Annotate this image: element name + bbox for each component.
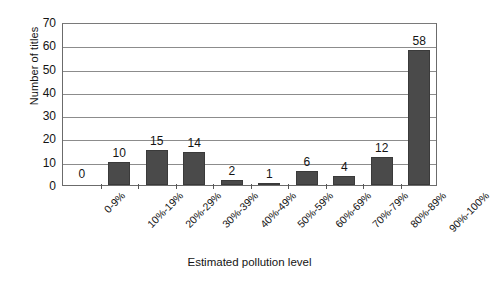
bar-value-label: 2 bbox=[228, 165, 235, 177]
bar[interactable] bbox=[408, 50, 430, 185]
y-axis-tick-label: 60 bbox=[24, 40, 56, 52]
bar-slot: 12 bbox=[363, 24, 401, 185]
y-axis-tick-label: 20 bbox=[24, 133, 56, 145]
bar-value-label: 58 bbox=[413, 35, 426, 47]
bar-value-label: 4 bbox=[341, 161, 348, 173]
x-axis-tick-labels: 0-9%10%-19%20%-29%30%-39%40%-49%50%-59%6… bbox=[62, 190, 437, 246]
x-axis-tick bbox=[288, 184, 289, 189]
x-axis-tick-label: 60%-69% bbox=[333, 190, 373, 230]
bar-value-label: 14 bbox=[188, 137, 201, 149]
bar-slot: 4 bbox=[326, 24, 364, 185]
x-axis-tick-label: 80%-89% bbox=[408, 190, 448, 230]
x-axis-tick bbox=[213, 184, 214, 189]
x-axis-tick-label: 0-9% bbox=[102, 190, 127, 215]
bar[interactable] bbox=[333, 176, 355, 185]
x-axis-tick-label: 50%-59% bbox=[296, 190, 336, 230]
bar-value-label: 1 bbox=[266, 168, 273, 180]
bar-value-label: 12 bbox=[375, 142, 388, 154]
y-axis-tick-labels: 010203040506070 bbox=[24, 23, 56, 186]
y-axis-tick-label: 30 bbox=[24, 110, 56, 122]
bar[interactable] bbox=[221, 180, 243, 185]
bar[interactable] bbox=[183, 152, 205, 185]
x-axis-tick-label: 30%-39% bbox=[221, 190, 261, 230]
bar[interactable] bbox=[258, 183, 280, 185]
bar-slot: 6 bbox=[288, 24, 326, 185]
plot-area: 010151421641258 bbox=[62, 23, 437, 186]
bars-layer: 010151421641258 bbox=[63, 24, 436, 185]
bar-slot: 1 bbox=[251, 24, 289, 185]
bar-value-label: 0 bbox=[78, 168, 85, 180]
x-axis-tick bbox=[101, 184, 102, 189]
y-axis-tick-label: 50 bbox=[24, 64, 56, 76]
bar-value-label: 10 bbox=[113, 147, 126, 159]
y-axis-tick-label: 40 bbox=[24, 87, 56, 99]
x-axis-tick-label: 10%-19% bbox=[146, 190, 186, 230]
y-axis-tick-label: 10 bbox=[24, 157, 56, 169]
x-axis-tick-label: 20%-29% bbox=[183, 190, 223, 230]
bar-slot: 14 bbox=[176, 24, 214, 185]
bar-slot: 15 bbox=[138, 24, 176, 185]
bar[interactable] bbox=[146, 150, 168, 185]
x-axis-tick-label: 90%-100% bbox=[447, 190, 491, 234]
bar[interactable] bbox=[296, 171, 318, 185]
x-axis-tick bbox=[363, 184, 364, 189]
x-axis-title: Estimated pollution level bbox=[62, 256, 437, 268]
bar-slot: 2 bbox=[213, 24, 251, 185]
bar-slot: 58 bbox=[401, 24, 439, 185]
y-axis-tick-label: 70 bbox=[24, 17, 56, 29]
bar-slot: 10 bbox=[101, 24, 139, 185]
x-axis-tick bbox=[138, 184, 139, 189]
x-axis-tick-label: 40%-49% bbox=[258, 190, 298, 230]
bar[interactable] bbox=[108, 162, 130, 185]
bar-value-label: 15 bbox=[150, 135, 163, 147]
x-axis-tick-label: 70%-79% bbox=[371, 190, 411, 230]
y-axis-tick-label: 0 bbox=[24, 180, 56, 192]
bar[interactable] bbox=[371, 157, 393, 185]
bar-value-label: 6 bbox=[303, 156, 310, 168]
bar-slot: 0 bbox=[63, 24, 101, 185]
